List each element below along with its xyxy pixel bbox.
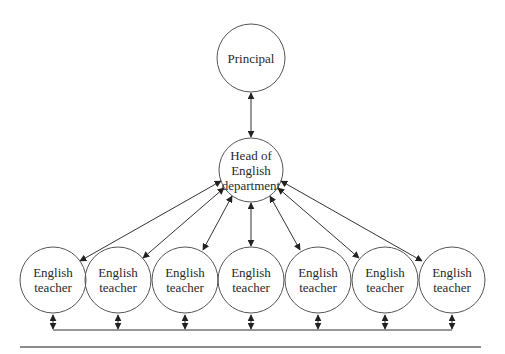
teacher-node-5: English teacher (285, 247, 351, 313)
teacher-3-label-line-1: English (165, 265, 205, 280)
teacher-2-label-line-1: English (98, 265, 138, 280)
principal-node: Principal (217, 24, 285, 92)
edge-head-teacher-5 (270, 196, 300, 250)
teacher-1-label-line-2: teacher (34, 280, 72, 295)
teacher-node-6: English teacher (352, 247, 418, 313)
edge-head-teacher-7 (281, 181, 422, 261)
org-chart-diagram: Principal Head of English department Eng… (0, 0, 505, 354)
edge-head-teacher-3 (203, 196, 232, 250)
teacher-node-1: English teacher (20, 247, 86, 313)
head-label-line-1: Head of (230, 148, 272, 163)
head-of-department-node: Head of English department (219, 138, 283, 202)
teacher-3-label-line-2: teacher (166, 280, 204, 295)
teacher-node-2: English teacher (85, 247, 151, 313)
principal-label: Principal (228, 51, 275, 66)
teacher-7-label-line-1: English (432, 265, 472, 280)
teacher-7-label-line-2: teacher (433, 280, 471, 295)
teacher-5-label-line-1: English (298, 265, 338, 280)
teacher-6-label-line-2: teacher (366, 280, 404, 295)
head-label-line-3: department (222, 178, 281, 193)
teacher-5-label-line-2: teacher (299, 280, 337, 295)
teacher-node-4: English teacher (218, 247, 284, 313)
teacher-4-label-line-2: teacher (232, 280, 270, 295)
teacher-6-label-line-1: English (365, 265, 405, 280)
head-label-line-2: English (231, 163, 271, 178)
teacher-node-7: English teacher (419, 247, 485, 313)
head-teacher-edges (80, 181, 422, 261)
teacher-node-3: English teacher (152, 247, 218, 313)
teacher-1-label-line-1: English (33, 265, 73, 280)
teacher-2-label-line-2: teacher (99, 280, 137, 295)
teacher-4-label-line-1: English (231, 265, 271, 280)
edge-head-teacher-1 (80, 181, 221, 261)
teacher-bus-edges (53, 315, 452, 329)
